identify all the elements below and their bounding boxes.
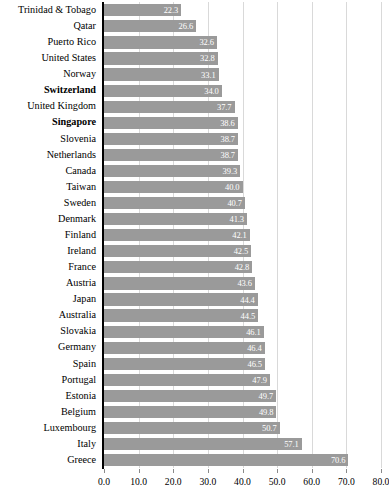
bar-row: 40.7 bbox=[104, 195, 381, 212]
category-label: Belgium bbox=[0, 404, 99, 421]
bar: 43.6 bbox=[104, 277, 255, 289]
category-label: United Kingdom bbox=[0, 98, 99, 115]
bar: 22.3 bbox=[104, 4, 181, 16]
bar-row: 38.7 bbox=[104, 147, 381, 164]
bar-rows: 22.326.632.632.833.134.037.738.638.738.7… bbox=[104, 2, 381, 468]
category-label: Netherlands bbox=[0, 147, 99, 164]
bar-value-label: 34.0 bbox=[204, 86, 218, 95]
bar-row: 46.5 bbox=[104, 356, 381, 373]
category-label: Ireland bbox=[0, 243, 99, 260]
bar-value-label: 26.6 bbox=[179, 22, 193, 31]
category-label: Austria bbox=[0, 275, 99, 292]
x-axis-tick bbox=[173, 469, 174, 473]
gridline bbox=[381, 2, 382, 468]
bar: 38.7 bbox=[104, 149, 238, 161]
category-label: Norway bbox=[0, 66, 99, 83]
bar: 38.6 bbox=[104, 117, 238, 129]
category-label: Estonia bbox=[0, 388, 99, 405]
bar: 32.8 bbox=[104, 52, 218, 64]
category-label: Italy bbox=[0, 436, 99, 453]
bar-value-label: 42.8 bbox=[235, 263, 249, 272]
x-axis-tick bbox=[208, 469, 209, 473]
bar-value-label: 43.6 bbox=[237, 279, 251, 288]
bar: 70.6 bbox=[104, 454, 348, 466]
bar-row: 39.3 bbox=[104, 163, 381, 180]
bar: 44.5 bbox=[104, 309, 258, 321]
bar: 49.7 bbox=[104, 390, 276, 402]
category-label: Japan bbox=[0, 291, 99, 308]
bar-value-label: 38.7 bbox=[221, 135, 235, 144]
x-axis-tick-labels: 0.010.020.030.040.050.060.070.080.0 bbox=[104, 476, 381, 494]
x-axis-tick-label: 10.0 bbox=[130, 476, 147, 487]
bar: 49.8 bbox=[104, 406, 276, 418]
bar-value-label: 32.8 bbox=[200, 54, 214, 63]
category-label: France bbox=[0, 259, 99, 276]
category-label: Portugal bbox=[0, 372, 99, 389]
bar-row: 33.1 bbox=[104, 66, 381, 83]
x-axis-tick-label: 70.0 bbox=[338, 476, 355, 487]
bar-row: 32.6 bbox=[104, 34, 381, 51]
category-label: Taiwan bbox=[0, 179, 99, 196]
bar-value-label: 46.5 bbox=[248, 360, 262, 369]
bar: 44.4 bbox=[104, 293, 258, 305]
x-axis-tick bbox=[104, 469, 105, 473]
bar-row: 32.8 bbox=[104, 50, 381, 67]
bar-row: 42.5 bbox=[104, 243, 381, 260]
bar: 46.4 bbox=[104, 342, 265, 354]
category-label: Slovakia bbox=[0, 323, 99, 340]
category-label: Puerto Rico bbox=[0, 34, 99, 51]
bar: 40.7 bbox=[104, 197, 245, 209]
bar-value-label: 40.0 bbox=[225, 183, 239, 192]
bar-row: 38.6 bbox=[104, 114, 381, 131]
plot-area: 22.326.632.632.833.134.037.738.638.738.7… bbox=[104, 2, 381, 468]
bar-row: 50.7 bbox=[104, 420, 381, 437]
bar-row: 44.4 bbox=[104, 291, 381, 308]
bar-row: 43.6 bbox=[104, 275, 381, 292]
x-axis-tick-label: 50.0 bbox=[269, 476, 286, 487]
bar-value-label: 49.7 bbox=[259, 392, 273, 401]
bar-row: 46.1 bbox=[104, 323, 381, 340]
bar-value-label: 33.1 bbox=[201, 70, 215, 79]
bar-row: 41.3 bbox=[104, 211, 381, 228]
bar-row: 47.9 bbox=[104, 372, 381, 389]
bar-value-label: 57.1 bbox=[284, 440, 298, 449]
x-axis-tick-label: 40.0 bbox=[234, 476, 251, 487]
category-label: Sweden bbox=[0, 195, 99, 212]
x-axis-tick-label: 30.0 bbox=[199, 476, 216, 487]
bar-row: 46.4 bbox=[104, 339, 381, 356]
category-label: Luxembourg bbox=[0, 420, 99, 437]
bar: 46.5 bbox=[104, 358, 265, 370]
x-axis-ticks bbox=[104, 469, 381, 475]
bar-value-label: 39.3 bbox=[223, 167, 237, 176]
bar: 34.0 bbox=[104, 85, 222, 97]
bar-row: 37.7 bbox=[104, 98, 381, 115]
category-label: Finland bbox=[0, 227, 99, 244]
bar-row: 22.3 bbox=[104, 2, 381, 19]
bar-value-label: 70.6 bbox=[331, 456, 345, 465]
category-label: Switzerland bbox=[0, 82, 99, 99]
bar-row: 49.8 bbox=[104, 404, 381, 421]
bar: 38.7 bbox=[104, 133, 238, 145]
category-label: Slovenia bbox=[0, 131, 99, 148]
bar: 57.1 bbox=[104, 438, 302, 450]
bar-value-label: 38.7 bbox=[221, 151, 235, 160]
x-axis-tick bbox=[277, 469, 278, 473]
category-label: Denmark bbox=[0, 211, 99, 228]
x-axis-tick bbox=[312, 469, 313, 473]
category-label: Greece bbox=[0, 452, 99, 469]
category-label: Qatar bbox=[0, 18, 99, 35]
bar-row: 42.1 bbox=[104, 227, 381, 244]
category-axis-labels: Trinidad & TobagoQatarPuerto RicoUnited … bbox=[0, 2, 99, 468]
x-axis-tick bbox=[381, 469, 382, 473]
bar-value-label: 49.8 bbox=[259, 408, 273, 417]
x-axis-tick-label: 60.0 bbox=[303, 476, 320, 487]
category-label: Australia bbox=[0, 307, 99, 324]
bar: 37.7 bbox=[104, 101, 235, 113]
category-label: Singapore bbox=[0, 114, 99, 131]
bar-row: 42.8 bbox=[104, 259, 381, 276]
bar: 41.3 bbox=[104, 213, 247, 225]
category-label: Trinidad & Tobago bbox=[0, 2, 99, 19]
bar-value-label: 41.3 bbox=[230, 215, 244, 224]
bar-row: 70.6 bbox=[104, 452, 381, 469]
